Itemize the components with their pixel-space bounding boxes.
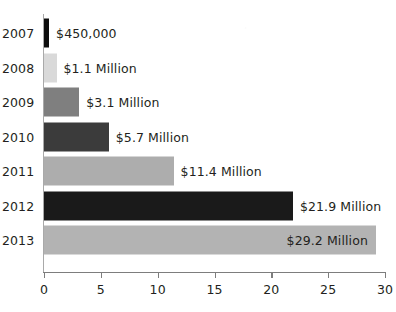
- x-tick-30: [385, 272, 386, 278]
- bar-2008: [44, 53, 57, 82]
- category-label-2012: 2012: [2, 198, 38, 213]
- chart-row: 2008$1.1 Million: [0, 51, 396, 86]
- value-label-2007: $450,000: [56, 26, 116, 41]
- category-label-2009: 2009: [2, 95, 38, 110]
- bar-2012: [44, 191, 293, 220]
- bar-2011: [44, 157, 174, 186]
- value-label-2013: $29.2 Million: [287, 233, 368, 248]
- value-label-2008: $1.1 Million: [64, 60, 137, 75]
- bar-chart: 2007$450,0002008$1.1 Million2009$3.1 Mil…: [0, 0, 396, 312]
- value-label-2010: $5.7 Million: [116, 129, 189, 144]
- category-label-2010: 2010: [2, 129, 38, 144]
- chart-plot-area: 2007$450,0002008$1.1 Million2009$3.1 Mil…: [0, 0, 396, 272]
- category-label-2008: 2008: [2, 60, 38, 75]
- bar-2009: [44, 88, 79, 117]
- x-tick-25: [328, 272, 329, 278]
- x-tick-label-5: 5: [97, 282, 105, 297]
- chart-row: 2012$21.9 Million: [0, 189, 396, 224]
- value-label-2009: $3.1 Million: [86, 95, 159, 110]
- x-tick-15: [215, 272, 216, 278]
- x-tick-label-25: 25: [320, 282, 336, 297]
- x-tick-label-0: 0: [40, 282, 48, 297]
- chart-row: 2013$29.2 Million: [0, 223, 396, 258]
- category-label-2013: 2013: [2, 233, 38, 248]
- bar-2010: [44, 122, 109, 151]
- x-tick-5: [101, 272, 102, 278]
- x-tick-label-15: 15: [206, 282, 222, 297]
- category-label-2007: 2007: [2, 26, 38, 41]
- x-tick-0: [44, 272, 45, 278]
- chart-row: 2007$450,000: [0, 16, 396, 51]
- y-axis-line: [43, 14, 44, 273]
- bar-2007: [44, 19, 49, 48]
- chart-row: 2010$5.7 Million: [0, 120, 396, 155]
- x-tick-label-10: 10: [150, 282, 166, 297]
- chart-row: 2011$11.4 Million: [0, 154, 396, 189]
- value-label-2011: $11.4 Million: [181, 164, 262, 179]
- chart-row: 2009$3.1 Million: [0, 85, 396, 120]
- x-tick-10: [158, 272, 159, 278]
- value-label-2012: $21.9 Million: [300, 198, 381, 213]
- x-tick-20: [271, 272, 272, 278]
- category-label-2011: 2011: [2, 164, 38, 179]
- x-tick-label-30: 30: [377, 282, 393, 297]
- x-tick-label-20: 20: [263, 282, 279, 297]
